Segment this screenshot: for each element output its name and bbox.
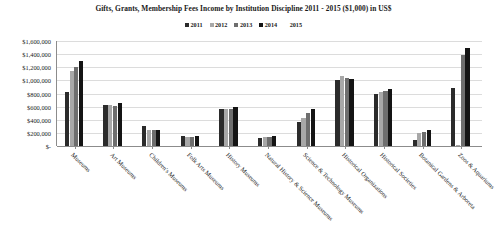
x-axis-label-cell: Natural History & Science Museums [249,149,288,241]
bar[interactable] [118,103,122,146]
bar[interactable] [306,113,310,146]
bar-group [57,41,96,146]
legend-label: 2015 [290,22,302,28]
bar[interactable] [65,92,69,146]
legend-label: 2014 [265,22,277,28]
bar[interactable] [301,118,305,146]
bar-group [327,41,366,146]
bar-group [173,41,212,146]
bar[interactable] [142,126,146,146]
bar[interactable] [147,130,151,146]
bar[interactable] [297,122,301,146]
y-axis-tick-label: $1,200,000 [22,64,51,71]
y-axis-tick-label: $1,600,000 [22,38,51,45]
bar[interactable] [219,109,223,146]
bar-groups [57,41,482,146]
bar[interactable] [156,130,160,146]
bar-group [134,41,173,146]
legend-label: 2012 [215,22,227,28]
bar-group [212,41,251,146]
bar[interactable] [422,132,426,146]
bar[interactable] [185,137,189,146]
legend-swatch-icon [259,23,263,27]
legend-swatch-icon [210,23,214,27]
legend-item-2013[interactable]: 2013 [234,22,252,28]
bar[interactable] [345,78,349,146]
x-axis-label-cell: Science & Technology Museums [288,149,327,241]
bar[interactable] [417,133,421,146]
x-axis-label-cell: Botanical Gardens & Arboreta [404,149,443,241]
x-axis-label-cell: Museums [56,149,95,241]
x-axis-label-cell: Children's Museums [133,149,172,241]
bar[interactable] [70,71,74,146]
bar[interactable] [272,136,276,146]
bar[interactable] [74,67,78,146]
y-axis-tick-label: $- [46,143,51,150]
bar[interactable] [263,137,267,146]
bar-group [443,41,482,146]
legend-item-2012[interactable]: 2012 [210,22,228,28]
bar[interactable] [152,130,156,146]
y-axis-labels: $1,600,000$1,400,000$1,200,000$1,000,000… [0,41,54,146]
bar-group [289,41,328,146]
legend-swatch-icon [234,23,238,27]
plot-area [56,41,482,146]
bar-group [250,41,289,146]
bar[interactable] [340,76,344,146]
x-axis-label-cell: Zoos & Aquariums [442,149,481,241]
x-axis-tick-label: Zoos & Aquariums [457,151,496,190]
x-axis-label-cell: Historical Societies [365,149,404,241]
x-axis-tick-label: Museums [70,151,92,173]
y-axis-tick-label: $800,000 [27,90,51,97]
legend-label: 2011 [190,22,202,28]
bar[interactable] [349,79,353,146]
bar[interactable] [181,136,185,147]
bar[interactable] [465,48,469,146]
y-axis-tick-label: $1,400,000 [22,51,51,58]
legend-swatch-icon [185,23,189,27]
x-axis-label-cell: Art Museums [95,149,134,241]
legend-item-2015[interactable]: 2015 [284,22,302,28]
y-axis-tick-label: $200,000 [27,129,51,136]
bar-group [366,41,405,146]
bar[interactable] [103,105,107,146]
chart-legend: 20112012201320142015 [0,22,487,28]
y-axis-tick-label: $400,000 [27,116,51,123]
y-axis-tick-label: $1,000,000 [22,77,51,84]
bar[interactable] [335,80,339,146]
y-axis-tick-label: $600,000 [27,103,51,110]
bar[interactable] [258,138,262,146]
bar[interactable] [383,91,387,146]
legend-item-2011[interactable]: 2011 [185,22,203,28]
bar[interactable] [113,106,117,146]
bar[interactable] [79,61,83,146]
bar[interactable] [108,105,112,146]
bar[interactable] [229,109,233,146]
bar[interactable] [451,88,455,146]
bar[interactable] [379,92,383,146]
bar[interactable] [388,89,392,146]
bar[interactable] [311,109,315,146]
bar-group [405,41,444,146]
bar[interactable] [461,55,465,146]
x-axis-label-cell: History Museums [211,149,250,241]
x-axis-label-cell: Folk Arts Museums [172,149,211,241]
bar-group [96,41,135,146]
bar[interactable] [190,137,194,146]
legend-item-2014[interactable]: 2014 [259,22,277,28]
chart-title: Gifts, Grants, Membership Fees Income by… [0,4,487,14]
legend-swatch-icon [284,23,288,27]
x-axis-label-cell: Historical Organizations [326,149,365,241]
legend-label: 2013 [240,22,252,28]
bar[interactable] [267,137,271,146]
bar[interactable] [195,136,199,146]
bar[interactable] [233,107,237,146]
bar[interactable] [427,130,431,146]
bar[interactable] [224,109,228,146]
x-axis-labels: MuseumsArt MuseumsChildren's MuseumsFolk… [56,149,481,241]
bar[interactable] [374,94,378,146]
